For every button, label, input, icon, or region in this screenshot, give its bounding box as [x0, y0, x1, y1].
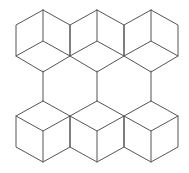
- top-row-cubes: [16, 10, 178, 72]
- vertical-connectors: [43, 71, 151, 101]
- cubes-diagram: [0, 0, 189, 173]
- cube-inner-edge: [16, 116, 70, 131]
- cube-inner-edge: [70, 116, 124, 131]
- cube-inner-edge: [70, 41, 124, 56]
- bottom-row-cubes: [16, 101, 178, 162]
- cube-inner-edge: [124, 41, 178, 56]
- cube-inner-edge: [16, 41, 70, 56]
- cube-inner-edge: [124, 116, 178, 131]
